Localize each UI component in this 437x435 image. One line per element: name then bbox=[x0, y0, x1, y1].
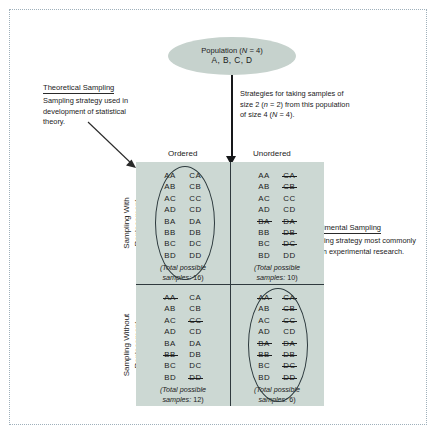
sample-pair: CA bbox=[189, 292, 201, 303]
sample-pair: DB bbox=[283, 349, 295, 360]
sample-pair: BA bbox=[258, 216, 270, 227]
sample-pair: DD bbox=[189, 250, 201, 261]
sample-pair: DD bbox=[283, 250, 295, 261]
sampling-matrix: AACAABCBACCCADCDBADABBDBBCDCBDDD (Total … bbox=[136, 162, 324, 406]
sample-pair: DB bbox=[189, 349, 201, 360]
sample-pair: BD bbox=[258, 372, 270, 383]
sample-pair: BC bbox=[258, 360, 270, 371]
sample-pair: BD bbox=[258, 250, 270, 261]
sample-pair: CC bbox=[283, 193, 295, 204]
sample-pair: DA bbox=[283, 338, 295, 349]
sample-pair: AA bbox=[164, 292, 176, 303]
sample-pair: BD bbox=[164, 372, 176, 383]
sample-pair: BB bbox=[164, 349, 176, 360]
sample-pair: BB bbox=[258, 227, 270, 238]
sample-pair: BC bbox=[164, 238, 176, 249]
sample-pair: BD bbox=[164, 250, 176, 261]
sample-pair: CD bbox=[189, 204, 201, 215]
sample-pair: AD bbox=[258, 204, 270, 215]
sample-pair: DD bbox=[283, 372, 295, 383]
sample-pair: AB bbox=[258, 303, 270, 314]
sample-pair: DD bbox=[189, 372, 201, 383]
cell-without-replacement-unordered: AACAABCBACCCADCDBADABBDBBCDCBDDD (Total … bbox=[230, 284, 324, 406]
sample-pair: DC bbox=[189, 238, 201, 249]
sample-pair: CB bbox=[189, 303, 201, 314]
sample-pair: CC bbox=[189, 193, 201, 204]
sample-pair: DC bbox=[189, 360, 201, 371]
sample-pair: BC bbox=[258, 238, 270, 249]
column-header-unordered: Unordered bbox=[253, 149, 291, 158]
cell-total: (Total possible samples: 6) bbox=[230, 385, 324, 404]
sample-pair: AC bbox=[258, 315, 270, 326]
sample-pair: DB bbox=[189, 227, 201, 238]
sample-pair: CB bbox=[283, 303, 295, 314]
sample-pair: CC bbox=[283, 315, 295, 326]
sample-pair: CA bbox=[189, 170, 201, 181]
sample-pair: AC bbox=[164, 315, 176, 326]
sample-pair: AD bbox=[164, 204, 176, 215]
sample-pair: CD bbox=[283, 204, 295, 215]
sample-pair: AD bbox=[164, 326, 176, 337]
sample-pair: DA bbox=[283, 216, 295, 227]
sample-pair: AA bbox=[258, 170, 270, 181]
sample-pair: AB bbox=[258, 181, 270, 192]
pair-list: AACAABCBACCCADCDBADABBDBBCDCBDDD bbox=[136, 292, 230, 383]
cell-without-replacement-ordered: AACAABCBACCCADCDBADABBDBBCDCBDDD (Total … bbox=[136, 284, 230, 406]
sample-pair: CB bbox=[189, 181, 201, 192]
sample-pair: CD bbox=[189, 326, 201, 337]
sample-pair: CA bbox=[283, 170, 295, 181]
sample-pair: BB bbox=[164, 227, 176, 238]
sample-pair: AD bbox=[258, 326, 270, 337]
matrix-horizontal-divider bbox=[136, 284, 324, 285]
cell-total: (Total possible samples: 12) bbox=[136, 385, 230, 404]
sample-pair: BA bbox=[164, 216, 176, 227]
sample-pair: AA bbox=[164, 170, 176, 181]
sample-pair: BC bbox=[164, 360, 176, 371]
pair-list: AACAABCBACCCADCDBADABBDBBCDCBDDD bbox=[230, 292, 324, 383]
pair-list: AACAABCBACCCADCDBADABBDBBCDCBDDD bbox=[136, 170, 230, 261]
cell-with-replacement-unordered: AACAABCBACCCADCDBADABBDBBCDCBDDD (Total … bbox=[230, 162, 324, 284]
pair-list: AACAABCBACCCADCDBADABBDBBCDCBDDD bbox=[230, 170, 324, 261]
sample-pair: AB bbox=[164, 303, 176, 314]
sample-pair: BA bbox=[258, 338, 270, 349]
sample-pair: AC bbox=[164, 193, 176, 204]
sample-pair: AA bbox=[258, 292, 270, 303]
cell-total: (Total possible samples: 10) bbox=[230, 263, 324, 282]
sample-pair: CC bbox=[189, 315, 201, 326]
cell-with-replacement-ordered: AACAABCBACCCADCDBADABBDBBCDCBDDD (Total … bbox=[136, 162, 230, 284]
cell-total: (Total possible samples: 16) bbox=[136, 263, 230, 282]
sample-pair: DC bbox=[283, 238, 295, 249]
sample-pair: CB bbox=[283, 181, 295, 192]
sample-pair: CD bbox=[283, 326, 295, 337]
sample-pair: CA bbox=[283, 292, 295, 303]
sample-pair: DA bbox=[189, 338, 201, 349]
column-header-ordered: Ordered bbox=[168, 149, 197, 158]
sample-pair: BB bbox=[258, 349, 270, 360]
sample-pair: AC bbox=[258, 193, 270, 204]
sample-pair: DB bbox=[283, 227, 295, 238]
sample-pair: DA bbox=[189, 216, 201, 227]
sample-pair: DC bbox=[283, 360, 295, 371]
diagram-frame: Population (N = 4) A, B, C, D Strategies… bbox=[9, 9, 427, 425]
sample-pair: BA bbox=[164, 338, 176, 349]
sample-pair: AB bbox=[164, 181, 176, 192]
